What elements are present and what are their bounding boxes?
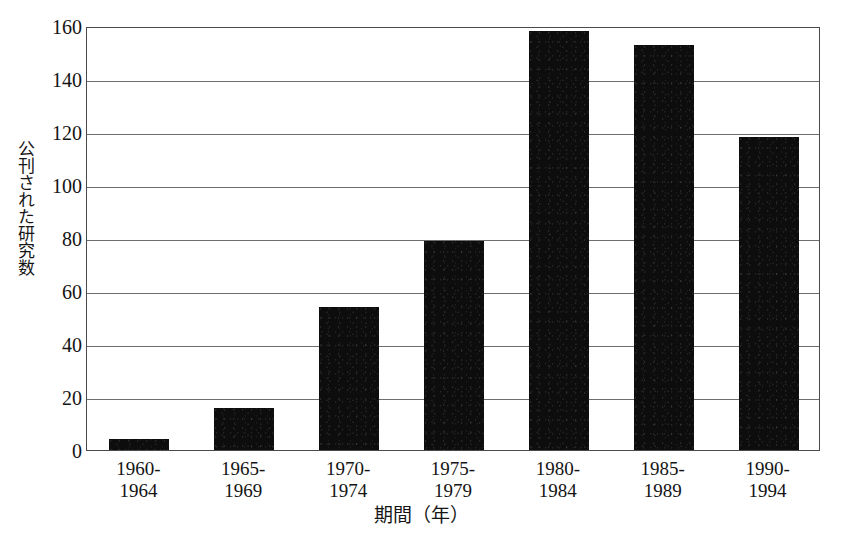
y-tick-label: 80	[34, 229, 82, 249]
x-tick-label-line: 1984	[505, 480, 610, 502]
x-tick-label: 1985-1989	[610, 458, 715, 502]
y-tick-label: 160	[34, 17, 82, 37]
x-tick-label-line: 1970-	[296, 458, 401, 480]
plot-area	[86, 27, 820, 451]
bar	[319, 307, 379, 450]
y-tick-label: 120	[34, 123, 82, 143]
bar	[739, 137, 799, 450]
x-tick-label: 1975-1979	[401, 458, 506, 502]
y-tick-label: 60	[34, 282, 82, 302]
x-tick-label-line: 1989	[610, 480, 715, 502]
x-tick-label: 1980-1984	[505, 458, 610, 502]
x-tick-label-line: 1975-	[401, 458, 506, 480]
x-axis-tick-labels: 1960-19641965-19691970-19741975-19791980…	[86, 458, 820, 504]
x-tick-label-line: 1994	[715, 480, 820, 502]
bar	[424, 241, 484, 450]
x-tick-label: 1965-1969	[191, 458, 296, 502]
x-tick-label-line: 1969	[191, 480, 296, 502]
bar-series	[87, 28, 819, 450]
x-axis-title: 期間（年）	[0, 505, 843, 527]
x-tick-label-line: 1990-	[715, 458, 820, 480]
y-axis-tick-labels: 020406080100120140160	[34, 0, 82, 545]
y-tick-label: 100	[34, 176, 82, 196]
y-axis-title: 公刊された研究数	[8, 140, 34, 276]
y-tick-label: 40	[34, 335, 82, 355]
x-tick-label-line: 1980-	[505, 458, 610, 480]
bar	[634, 45, 694, 450]
x-tick-label-line: 1974	[296, 480, 401, 502]
bar	[529, 31, 589, 450]
x-tick-label: 1990-1994	[715, 458, 820, 502]
x-tick-label-line: 1979	[401, 480, 506, 502]
y-tick-label: 20	[34, 388, 82, 408]
x-tick-label-line: 1964	[86, 480, 191, 502]
y-tick-label: 0	[34, 441, 82, 461]
bar-chart-figure: 公刊された研究数 020406080100120140160 1960-1964…	[0, 0, 843, 545]
bar	[214, 408, 274, 450]
x-tick-label-line: 1985-	[610, 458, 715, 480]
bar	[109, 439, 169, 450]
x-tick-label: 1960-1964	[86, 458, 191, 502]
x-tick-label: 1970-1974	[296, 458, 401, 502]
y-tick-label: 140	[34, 70, 82, 90]
x-tick-label-line: 1960-	[86, 458, 191, 480]
x-tick-label-line: 1965-	[191, 458, 296, 480]
